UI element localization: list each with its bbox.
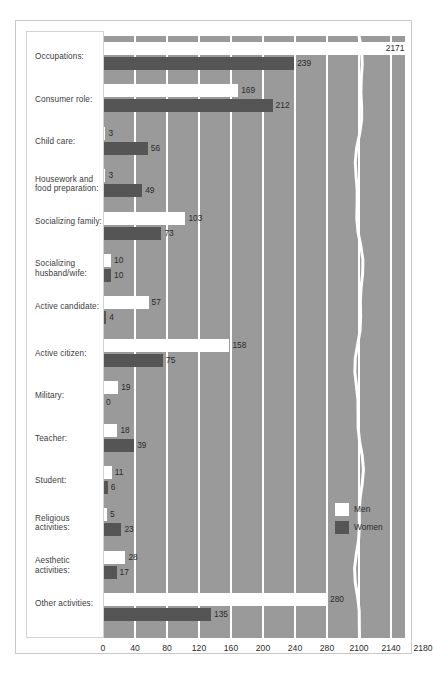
- bar-men: [103, 551, 125, 564]
- bar-women: [103, 523, 121, 536]
- bar-women: [103, 184, 142, 197]
- bar-value-label: 39: [137, 439, 146, 452]
- gridline: [198, 36, 200, 638]
- bar-value-label: 28: [128, 551, 137, 564]
- chart-legend: Men Women: [335, 502, 405, 538]
- bar-value-label: 135: [214, 608, 228, 621]
- bar-value-label: 3: [108, 127, 113, 140]
- x-tick-label: 240: [288, 641, 302, 655]
- plot-area: 2171239169212356349103731010574158751901…: [103, 36, 405, 638]
- gridline: [134, 36, 136, 638]
- x-tick-label: 2140: [381, 641, 400, 655]
- x-tick-label: 160: [224, 641, 238, 655]
- gridline: [262, 36, 264, 638]
- bar-value-label: 73: [164, 227, 173, 240]
- x-tick-label: 80: [162, 641, 172, 655]
- bar-value-label: 57: [152, 296, 161, 309]
- gridline: [294, 36, 296, 638]
- x-tick-label: 200: [256, 641, 270, 655]
- gridline: [390, 36, 392, 638]
- bar-value-label: 4: [109, 311, 114, 324]
- legend-swatch-men: [335, 503, 349, 516]
- bar-women: [103, 57, 294, 70]
- bar-value-label: 158: [232, 339, 246, 352]
- category-label: Occupations:: [35, 52, 105, 62]
- bar-value-label: 49: [145, 184, 154, 197]
- bar-value-label: 3: [108, 169, 113, 182]
- bar-value-label: 6: [111, 481, 116, 494]
- category-label-panel: Occupations:Consumer role:Child care:Hou…: [26, 31, 104, 638]
- bar-men: [103, 212, 185, 225]
- bar-value-label: 75: [166, 354, 175, 367]
- category-label: Socializing family:: [35, 217, 105, 227]
- bar-women: [103, 608, 211, 621]
- legend-item-men: Men: [335, 502, 405, 517]
- bar-men: [103, 593, 327, 606]
- bar-value-label: 239: [297, 57, 311, 70]
- x-tick-label: 40: [130, 641, 140, 655]
- bar-value-label: 56: [151, 142, 160, 155]
- x-tick-label: 2100: [349, 641, 368, 655]
- bar-value-label: 10: [114, 269, 123, 282]
- bar-men: [103, 84, 238, 97]
- category-label: Socializing husband/wife:: [35, 259, 105, 278]
- x-tick-label: 120: [192, 641, 206, 655]
- gridline: [230, 36, 232, 638]
- bar-women: [103, 142, 148, 155]
- bar-men: [103, 296, 149, 309]
- category-label: Active candidate:: [35, 302, 105, 312]
- bar-men: [103, 381, 118, 394]
- x-tick-label: 280: [320, 641, 334, 655]
- category-label: Religious activities:: [35, 514, 105, 533]
- legend-swatch-women: [335, 521, 349, 534]
- legend-item-women: Women: [335, 520, 405, 535]
- category-label: Consumer role:: [35, 95, 105, 105]
- category-label: Teacher:: [35, 434, 105, 444]
- bar-women: [103, 99, 273, 112]
- bar-men: [103, 42, 405, 55]
- bar-women: [103, 439, 134, 452]
- bar-value-label: 23: [124, 523, 133, 536]
- bar-value-label: 280: [330, 593, 344, 606]
- gridline: [358, 36, 360, 638]
- bar-men: [103, 339, 229, 352]
- bar-value-label: 212: [276, 99, 290, 112]
- category-label: Student:: [35, 476, 105, 486]
- bar-value-label: 17: [120, 566, 129, 579]
- x-axis: 04080120160200240280210021402180: [103, 641, 405, 657]
- x-tick-label: 0: [101, 641, 106, 655]
- bar-value-label: 5: [110, 508, 115, 521]
- category-label: Other activities:: [35, 599, 105, 609]
- bar-value-label: 11: [115, 466, 124, 479]
- gridline: [166, 36, 168, 638]
- category-label: Child care:: [35, 137, 105, 147]
- x-tick-label: 2180: [413, 641, 432, 655]
- bar-value-label: 0: [106, 396, 111, 409]
- category-label: Military:: [35, 391, 105, 401]
- bar-men: [103, 424, 117, 437]
- bar-women: [103, 227, 161, 240]
- bar-women: [103, 354, 163, 367]
- category-label: Active citizen:: [35, 349, 105, 359]
- bar-value-label: 19: [121, 381, 130, 394]
- category-label: Housework and food preparation:: [35, 175, 105, 194]
- bar-value-label: 18: [120, 424, 129, 437]
- gridline: [326, 36, 328, 638]
- category-label: Aesthetic activities:: [35, 556, 105, 575]
- legend-label-women: Women: [354, 520, 383, 535]
- bar-value-label: 103: [188, 212, 202, 225]
- legend-label-men: Men: [354, 502, 370, 517]
- bar-value-label: 169: [241, 84, 255, 97]
- bar-value-label: 10: [114, 254, 123, 267]
- bar-value-label: 2171: [386, 42, 405, 55]
- bar-women: [103, 566, 117, 579]
